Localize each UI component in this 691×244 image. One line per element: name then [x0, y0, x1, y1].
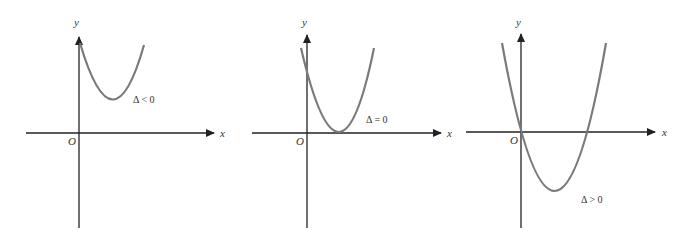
- x-axis-label: x: [661, 126, 667, 138]
- panel-delta-positive: y x O Δ > 0: [466, 16, 667, 228]
- x-axis-label: x: [219, 127, 225, 139]
- parabola-curve: [502, 43, 606, 191]
- discriminant-diagram: y x O Δ < 0 y x O Δ = 0 y x O Δ > 0: [0, 0, 691, 244]
- delta-label: Δ < 0: [133, 94, 155, 105]
- y-axis-label: y: [73, 16, 79, 28]
- y-axis-label: y: [301, 16, 307, 28]
- origin-label: O: [510, 134, 518, 146]
- panel-delta-negative: y x O Δ < 0: [26, 16, 225, 228]
- delta-label: Δ = 0: [366, 114, 388, 125]
- origin-label: O: [68, 135, 76, 147]
- parabola-curve: [80, 43, 144, 100]
- x-axis-label: x: [446, 127, 452, 139]
- delta-label: Δ > 0: [581, 194, 603, 205]
- parabola-curve: [301, 48, 374, 132]
- origin-label: O: [296, 135, 304, 147]
- panel-delta-zero: y x O Δ = 0: [252, 16, 452, 228]
- y-axis-label: y: [515, 16, 521, 28]
